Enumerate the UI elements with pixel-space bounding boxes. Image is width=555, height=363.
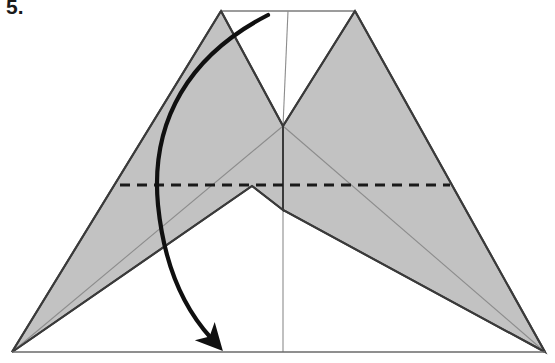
step-number-label: 5.: [6, 0, 24, 17]
fold-diagram-canvas: [0, 0, 555, 363]
shaded-wings-group: [12, 11, 545, 352]
left-shaded-wing: [12, 11, 283, 352]
origami-figure: 5.: [0, 0, 555, 363]
crease-center-vertical-top: [283, 11, 288, 126]
